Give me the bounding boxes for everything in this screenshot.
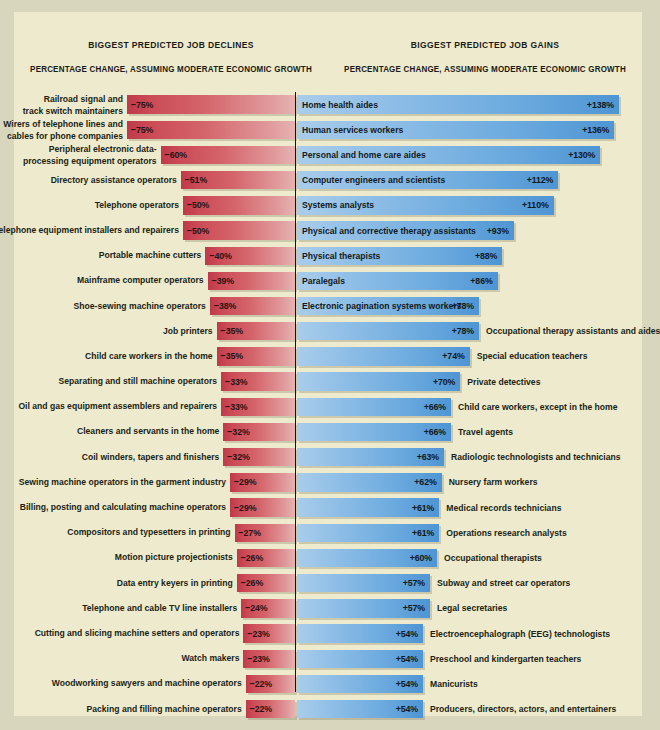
decline-bar: −50% <box>183 221 295 239</box>
chart-row: Child care workers in the home−35%+74%Sp… <box>14 344 642 369</box>
gain-bar: Physical therapists+88% <box>297 247 502 265</box>
gain-entry: +63%Radiologic technologists and technic… <box>297 445 642 470</box>
gain-bar-container: +61% <box>297 524 439 542</box>
decline-bar-container: −22% <box>246 675 295 693</box>
chart-row: Portable machine cutters−40%Physical the… <box>14 243 642 268</box>
gain-entry: +70%Private detectives <box>297 369 642 394</box>
decline-value-label: −24% <box>245 603 267 614</box>
gain-bar: +61% <box>297 498 439 516</box>
chart-row: Railroad signal andtrack switch maintain… <box>14 92 642 117</box>
gain-entry: +54%Electroencephalograph (EEG) technolo… <box>297 621 642 646</box>
decline-entry: Separating and still machine operators−3… <box>14 369 295 394</box>
decline-bar-container: −50% <box>183 196 295 214</box>
decline-entry: Billing, posting and calculating machine… <box>14 495 295 520</box>
decline-entry: Telephone equipment installers and repai… <box>14 218 295 243</box>
gain-entry: +60%Occupational therapists <box>297 545 642 570</box>
gain-bar: +78% <box>297 322 479 340</box>
decline-label-line: Coil winders, tapers and finishers <box>82 451 220 463</box>
gain-bar-container: +54% <box>297 624 423 642</box>
gain-label: Personal and home care aides <box>302 149 426 160</box>
gain-entry: Computer engineers and scientists+112% <box>297 168 642 193</box>
decline-bar: −22% <box>246 700 295 718</box>
gain-entry: +61%Operations research analysts <box>297 520 642 545</box>
decline-value-label: −29% <box>234 477 256 488</box>
gain-bar: +54% <box>297 624 423 642</box>
decline-label: Directory assistance operators <box>51 166 181 194</box>
gain-value-label: +78% <box>452 326 474 337</box>
gain-entry: Physical therapists+88% <box>297 243 642 268</box>
decline-label-line: Cutting and slicing machine setters and … <box>35 628 240 640</box>
gain-bar-container: +62% <box>297 473 442 491</box>
gain-bar: +74% <box>297 347 470 365</box>
gain-bar: +54% <box>297 675 423 693</box>
decline-label-line: Sewing machine operators in the garment … <box>19 477 226 489</box>
gain-label: Child care workers, except in the home <box>458 401 618 412</box>
decline-value-label: −23% <box>247 628 269 639</box>
decline-label-line: Wirers of telephone lines and <box>3 118 123 130</box>
decline-bar: −50% <box>183 196 295 214</box>
gain-value-label: +54% <box>396 653 418 664</box>
gain-entry: +62%Nursery farm workers <box>297 470 642 495</box>
decline-label-line: Watch makers <box>182 653 240 665</box>
gain-value-label: +57% <box>403 603 425 614</box>
gain-value-label: +138% <box>587 99 614 110</box>
decline-bar: −38% <box>210 297 295 315</box>
gain-label: Occupational therapists <box>444 552 542 563</box>
decline-label-line: Directory assistance operators <box>51 174 177 186</box>
gain-bar-container: +63% <box>297 448 444 466</box>
decline-bar: −51% <box>181 171 295 189</box>
gain-label: Producers, directors, actors, and entert… <box>430 703 616 714</box>
decline-bar: −29% <box>230 498 295 516</box>
chart-row: Peripheral electronic data-processing eq… <box>14 142 642 167</box>
gain-label: Private detectives <box>467 376 540 387</box>
chart-row: Sewing machine operators in the garment … <box>14 470 642 495</box>
gain-entry: Human services workers+136% <box>297 117 642 142</box>
decline-label-line: Portable machine cutters <box>99 250 202 262</box>
decline-entry: Directory assistance operators−51% <box>14 168 295 193</box>
decline-label: Peripheral electronic data-processing eq… <box>23 141 161 169</box>
decline-bar-container: −26% <box>237 574 295 592</box>
decline-entry: Motion picture projectionists−26% <box>14 545 295 570</box>
chart-row: Cleaners and servants in the home−32%+66… <box>14 419 642 444</box>
decline-value-label: −50% <box>187 200 209 211</box>
gain-bar: Computer engineers and scientists+112% <box>297 171 558 189</box>
decline-label-line: Telephone operators <box>95 199 179 211</box>
decline-value-label: −33% <box>225 376 247 387</box>
decline-label-line: Cleaners and servants in the home <box>77 426 219 438</box>
gain-entry: +61%Medical records technicians <box>297 495 642 520</box>
gain-entry: Physical and corrective therapy assistan… <box>297 218 642 243</box>
decline-label: Cutting and slicing machine setters and … <box>35 619 244 647</box>
decline-bar-container: −38% <box>210 297 295 315</box>
gain-bar-container: Personal and home care aides+130% <box>297 146 600 164</box>
gain-value-label: +112% <box>527 175 554 186</box>
decline-label: Shoe-sewing machine operators <box>74 292 210 320</box>
decline-value-label: −33% <box>225 401 247 412</box>
gains-title: BIGGEST PREDICTED JOB GAINS <box>328 39 642 51</box>
gain-entry: Personal and home care aides+130% <box>297 142 642 167</box>
gain-label: Computer engineers and scientists <box>302 175 445 186</box>
gain-value-label: +62% <box>414 477 436 488</box>
decline-bar-container: −29% <box>230 473 295 491</box>
decline-entry: Oil and gas equipment assemblers and rep… <box>14 394 295 419</box>
chart-row: Compositors and typesetters in printing−… <box>14 520 642 545</box>
decline-entry: Cleaners and servants in the home−32% <box>14 419 295 444</box>
gain-label: Preschool and kindergarten teachers <box>430 653 581 664</box>
decline-bar: −24% <box>241 599 295 617</box>
gain-bar: +54% <box>297 650 423 668</box>
decline-bar: −75% <box>127 95 295 113</box>
gain-value-label: +61% <box>412 502 434 513</box>
decline-label: Cleaners and servants in the home <box>77 418 223 446</box>
chart-row: Mainframe computer operators−39%Paralega… <box>14 268 642 293</box>
gain-entry: +54%Manicurists <box>297 671 642 696</box>
chart-row: Billing, posting and calculating machine… <box>14 495 642 520</box>
gain-bar-container: +57% <box>297 574 430 592</box>
decline-bar-container: −39% <box>208 272 295 290</box>
gain-bar-container: Systems analysts+110% <box>297 196 554 214</box>
gain-bar: Physical and corrective therapy assistan… <box>297 221 514 239</box>
gain-bar-container: +70% <box>297 372 460 390</box>
gain-bar: Paralegals+86% <box>297 272 498 290</box>
gain-bar: +70% <box>297 372 460 390</box>
decline-bar-container: −35% <box>217 347 295 365</box>
chart-row: Woodworking sawyers and machine operator… <box>14 671 642 696</box>
